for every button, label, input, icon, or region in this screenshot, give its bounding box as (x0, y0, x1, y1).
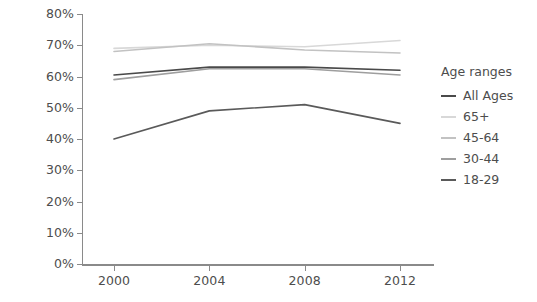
legend-item[interactable]: All Ages (441, 86, 537, 105)
legend-item-label: 45-64 (463, 130, 499, 145)
legend-swatch-icon (441, 179, 456, 181)
legend-item[interactable]: 65+ (441, 107, 537, 126)
legend-item-label: 65+ (463, 109, 489, 124)
legend-swatch-icon (441, 158, 456, 160)
legend-items: All Ages65+45-6430-4418-29 (441, 86, 537, 189)
legend-swatch-icon (441, 95, 456, 97)
legend-item-label: 30-44 (463, 151, 499, 166)
series-line (114, 69, 400, 80)
legend-item[interactable]: 18-29 (441, 170, 537, 189)
series-line (114, 44, 400, 53)
legend-item-label: All Ages (463, 88, 513, 103)
legend-swatch-icon (441, 116, 456, 118)
line-chart: 80%70%60%50%40%30%20%10%0% 2000200420082… (0, 0, 537, 302)
legend-item[interactable]: 30-44 (441, 149, 537, 168)
legend-title: Age ranges (441, 64, 537, 79)
legend-swatch-icon (441, 137, 456, 139)
legend-item-label: 18-29 (463, 172, 499, 187)
legend-item[interactable]: 45-64 (441, 128, 537, 147)
legend: Age ranges All Ages65+45-6430-4418-29 (441, 64, 537, 191)
series-line (114, 105, 400, 139)
